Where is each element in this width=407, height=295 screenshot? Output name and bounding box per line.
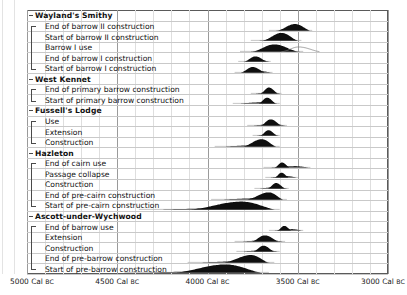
x-axis-tick-label: 4000 Cal BC [186, 277, 230, 286]
group-tick [29, 110, 33, 111]
probability-distribution [0, 253, 407, 264]
group-tick [29, 153, 33, 154]
probability-distribution [0, 116, 407, 127]
probability-distribution [0, 94, 407, 105]
x-axis-tick-label: 5000 Cal BC [10, 277, 54, 286]
probability-distribution [0, 232, 407, 243]
probability-distribution [0, 126, 407, 137]
group-tick [29, 216, 33, 217]
probability-distribution [0, 179, 407, 190]
probability-distribution [0, 158, 407, 169]
x-axis-tick-label: 4500 Cal BC [95, 277, 139, 286]
x-axis-tick-label: 3500 Cal BC [276, 277, 320, 286]
probability-distribution [0, 84, 407, 95]
probability-distribution [0, 137, 407, 148]
probability-distribution [0, 263, 407, 274]
probability-distribution [0, 221, 407, 232]
probability-distribution [0, 31, 407, 42]
group-tick [29, 15, 33, 16]
probability-distribution [0, 21, 407, 32]
probability-distribution [0, 200, 407, 211]
probability-distribution [0, 63, 407, 74]
probability-distribution [0, 190, 407, 201]
probability-distribution [0, 52, 407, 63]
chronological-model-chart: Wayland's SmithyEnd of barrow II constru… [0, 0, 407, 295]
probability-distribution [0, 42, 407, 53]
group-tick [29, 79, 33, 80]
probability-distribution [0, 168, 407, 179]
probability-distribution [0, 242, 407, 253]
x-axis-tick-label: 3000 Cal BC [361, 277, 405, 286]
